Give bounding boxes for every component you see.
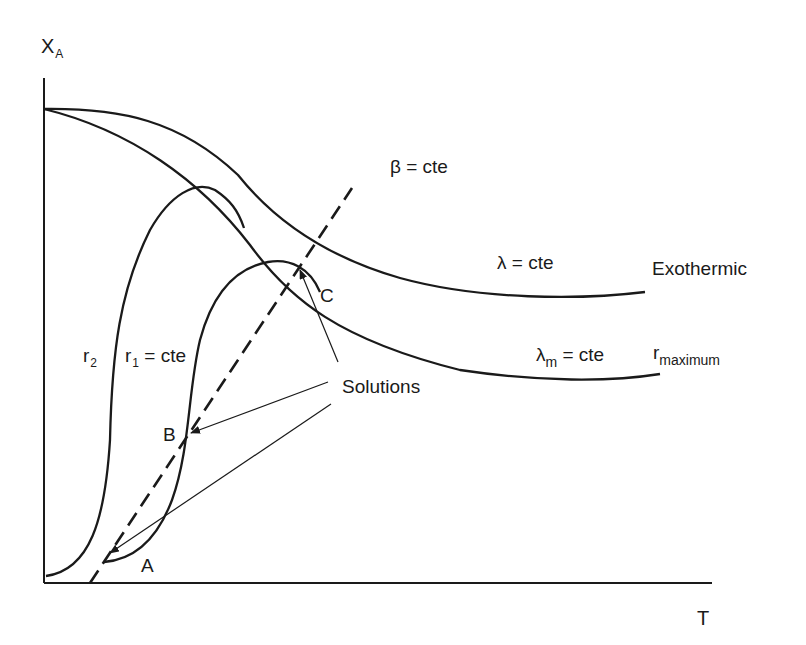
exothermic-label: Exothermic — [652, 259, 747, 278]
r1-sub: 1 — [132, 356, 139, 370]
r1-curve — [104, 261, 320, 562]
beta-label: β = cte — [390, 157, 448, 176]
point-c-label: C — [320, 286, 334, 305]
lambda-label: λ = cte — [497, 253, 554, 272]
lambda-text: = cte — [507, 252, 554, 273]
r-maximum-label: rmaximum — [653, 343, 720, 367]
y-axis-label: XA — [41, 36, 63, 60]
r1-text: = cte — [139, 345, 186, 366]
r2-sub: 2 — [90, 356, 97, 370]
lambda-m-label: λm = cte — [536, 345, 604, 369]
lambda-m-text: = cte — [557, 344, 604, 365]
r-maximum-sub: maximum — [659, 352, 720, 368]
solution-arrow-c — [300, 270, 338, 362]
lambda-symbol: λ — [497, 252, 507, 273]
point-b-label: B — [163, 425, 176, 444]
r1-symbol: r — [125, 345, 131, 366]
diagram-canvas — [0, 0, 806, 645]
beta-symbol: β — [390, 156, 401, 177]
solution-arrow-b — [191, 382, 328, 433]
beta-line — [90, 188, 352, 583]
solution-arrow-a — [110, 404, 331, 553]
r2-curve — [46, 187, 244, 576]
solutions-label: Solutions — [342, 377, 420, 396]
point-a-label: A — [141, 556, 154, 575]
lambda-m-symbol: λ — [536, 344, 546, 365]
y-axis-label-sub: A — [55, 47, 63, 61]
r2-label: r2 — [83, 346, 97, 369]
beta-text: = cte — [401, 156, 448, 177]
r1-label: r1 = cte — [125, 346, 186, 369]
lambda-m-curve — [44, 109, 660, 380]
r2-symbol: r — [83, 345, 89, 366]
x-axis-label: T — [697, 608, 709, 628]
lambda-m-sub: m — [546, 354, 558, 370]
y-axis-label-main: X — [41, 35, 54, 57]
